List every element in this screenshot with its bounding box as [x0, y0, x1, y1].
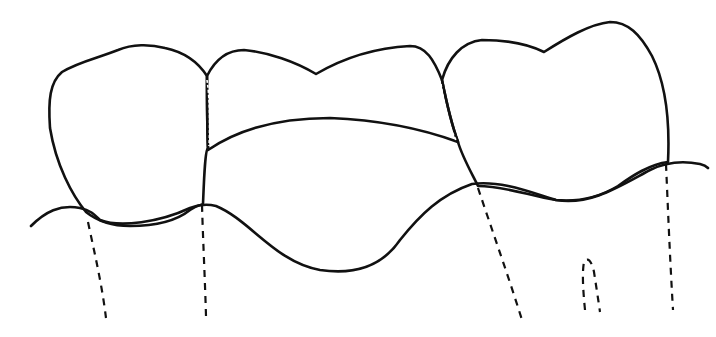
root-outline-3 [478, 188, 522, 320]
root-outline-1 [88, 222, 106, 318]
root-outline-4 [666, 164, 673, 310]
right-abutment-crown [442, 22, 668, 200]
gum-line [31, 162, 708, 271]
pontic [207, 46, 458, 150]
left-abutment-crown [49, 45, 208, 226]
root-outline-2 [202, 205, 206, 316]
root-outline-5 [583, 260, 600, 312]
bridge-diagram [0, 0, 716, 337]
